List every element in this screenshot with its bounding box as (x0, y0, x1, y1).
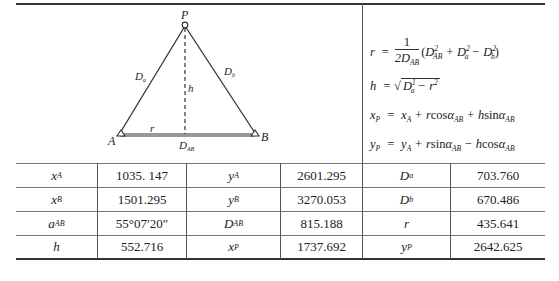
label-r: r (150, 122, 155, 134)
cell-xP-label: xP (187, 236, 280, 258)
cell-xA-label: xA (16, 164, 97, 187)
point-P-circle (182, 22, 188, 28)
formula-yP: yP = yA + rsinαAB − hcosαAB (370, 132, 514, 161)
cell-h-value: 552.716 (98, 236, 186, 258)
cell-h-label: h (16, 236, 97, 258)
label-Da: Da (134, 70, 146, 83)
label-Db: Db (223, 65, 235, 78)
cell-yB-label: yB (187, 188, 280, 211)
label-A: A (107, 134, 116, 148)
cell-DAB-label: DAB (187, 212, 280, 235)
label-DAB: DAB (178, 139, 195, 152)
cell-xB-label: xB (16, 188, 97, 211)
formula-xP: xP = xA + rcosαAB + hsinαAB (370, 103, 514, 132)
side-Db (185, 26, 255, 133)
side-Da (120, 26, 185, 133)
cell-aAB-value: 55°07′20″ (98, 212, 186, 235)
formula-h: h = √D1a − r2 (370, 71, 514, 103)
point-B-triangle (251, 130, 259, 136)
cell-Db-label: Db (363, 188, 450, 211)
label-P: P (180, 8, 189, 22)
cell-r-label: r (363, 212, 450, 235)
point-A-triangle (117, 130, 125, 136)
cell-xP-value: 1737.692 (281, 236, 362, 258)
label-h: h (188, 82, 194, 94)
formula-block: r = 12DAB(D2AB + D2a − D2b) h = √D1a − r… (370, 35, 514, 161)
label-B: B (261, 130, 269, 144)
cell-DAB-value: 815.188 (281, 212, 362, 235)
formula-r: r = 12DAB(D2AB + D2a − D2b) (370, 35, 514, 71)
cell-aAB-label: aAB (16, 212, 97, 235)
cell-Da-label: Da (363, 164, 450, 187)
cell-r-value: 435.641 (451, 212, 545, 235)
cell-yA-value: 2601.295 (281, 164, 362, 187)
cell-yA-label: yA (187, 164, 280, 187)
cell-xB-value: 1501.295 (98, 188, 186, 211)
cell-yP-label: yP (363, 236, 450, 258)
cell-Da-value: 703.760 (451, 164, 545, 187)
triangle-diagram: P A B Da Db h r DAB (0, 0, 362, 160)
cell-Db-value: 670.486 (451, 188, 545, 211)
cell-yP-value: 2642.625 (451, 236, 545, 258)
cell-xA-value: 1035. 147 (98, 164, 186, 187)
cell-yB-value: 3270.053 (281, 188, 362, 211)
